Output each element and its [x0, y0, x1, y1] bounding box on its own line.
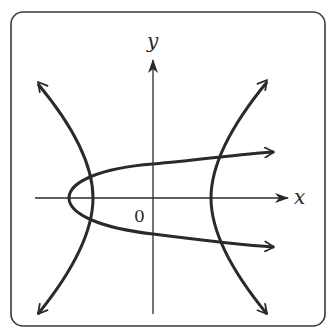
x-axis-label: x [294, 185, 305, 209]
graph-figure: y x 0 [0, 0, 330, 336]
origin-label: 0 [134, 206, 145, 226]
y-axis-label: y [146, 29, 159, 53]
diagram-frame [11, 12, 325, 326]
